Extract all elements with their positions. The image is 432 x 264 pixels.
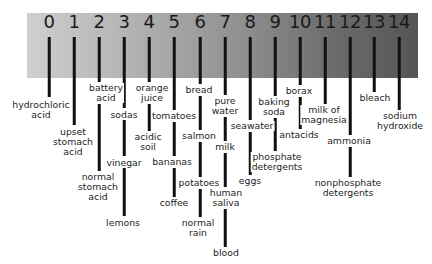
substance-label: blood [212,248,240,258]
substance-label: vinegar [105,158,142,168]
substance-label: human saliva [209,188,243,208]
substance-label: pure water [211,96,240,116]
connector-line [224,209,227,247]
substance-label: milk of magnesia [300,105,347,125]
ph-value-14: 14 [388,12,410,32]
substance-label: acidic soil [134,132,163,152]
connector-line [199,37,202,84]
ph-value-1: 1 [69,12,80,32]
substance-label: lemons [105,218,141,228]
connector-line [398,37,401,110]
substance-label: baking soda [257,97,290,117]
connector-line [173,122,176,156]
connector-line [274,37,277,96]
substance-label: ammonia [326,136,372,146]
ph-value-6: 6 [195,12,206,32]
substance-label: antacids [278,130,319,140]
connector-line [173,37,176,110]
substance-label: sodium hydroxide [376,111,424,131]
ph-value-2: 2 [94,12,105,32]
ph-value-11: 11 [314,12,336,32]
connector-line [73,37,76,125]
ph-value-7: 7 [220,12,231,32]
substance-label: bananas [151,157,193,167]
ph-value-9: 9 [270,12,281,32]
ph-value-8: 8 [245,12,256,32]
substance-label: sodas [110,110,139,120]
substance-label: hydrochloric acid [11,100,70,120]
substance-label: salmon [181,131,217,141]
ph-value-12: 12 [339,12,361,32]
connector-line [148,37,151,82]
connector-line [224,153,227,187]
ph-value-13: 13 [363,12,385,32]
substance-label: phosphate detergents [251,152,304,172]
substance-label: milk [214,142,236,152]
connector-line [224,117,227,141]
connector-line [123,168,126,216]
substance-label: tomatoes [151,111,197,121]
substance-label: upset stomach acid [52,127,94,157]
connector-line [349,37,352,135]
ph-value-3: 3 [119,12,130,32]
substance-label: seawater [230,121,275,131]
substance-label: normal rain [181,218,216,238]
connector-line [349,147,352,177]
ph-value-10: 10 [289,12,311,32]
connector-line [299,37,302,85]
substance-label: eggs [238,176,262,186]
substance-label: borax [285,86,314,96]
connector-line [199,142,202,177]
ph-value-0: 0 [44,12,55,32]
connector-line [224,37,227,95]
substance-label: bread [185,85,214,95]
connector-line [98,37,101,82]
connector-line [148,104,151,131]
substance-label: bleach [359,93,392,103]
connector-line [249,37,252,120]
connector-line [373,37,376,92]
connector-line [98,104,101,171]
connector-line [173,168,176,197]
connector-line [324,37,327,104]
ph-value-5: 5 [169,12,180,32]
substance-label: coffee [159,198,190,208]
connector-line [48,37,51,97]
connector-line [123,120,126,156]
substance-label: normal stomach acid [77,172,119,202]
substance-label: battery acid [88,83,124,103]
substance-label: nonphosphate detergents [314,178,383,198]
substance-label: orange juice [135,83,170,103]
connector-line [199,96,202,130]
ph-value-4: 4 [144,12,155,32]
connector-line [199,189,202,217]
